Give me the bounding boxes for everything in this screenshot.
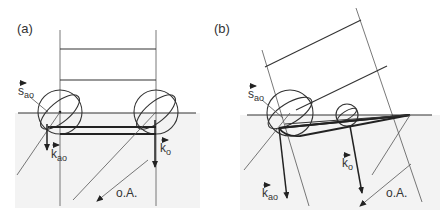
s-ao-label: sao: [18, 84, 34, 100]
optic-axis-label-a: o.A.: [116, 186, 137, 200]
incident-wavefront-b-2: [296, 66, 387, 110]
optic-axis-label-b: o.A.: [386, 186, 407, 200]
panel-a-label: (a): [17, 21, 33, 36]
birefringence-diagram: (a) sao kao ko o: [0, 0, 446, 217]
s-ao-label-b: sao: [248, 87, 264, 103]
diagram-canvas: (a) sao kao ko o: [0, 0, 446, 217]
incident-wavefront-b-1: [265, 20, 361, 67]
panel-b-label: (b): [214, 21, 230, 36]
